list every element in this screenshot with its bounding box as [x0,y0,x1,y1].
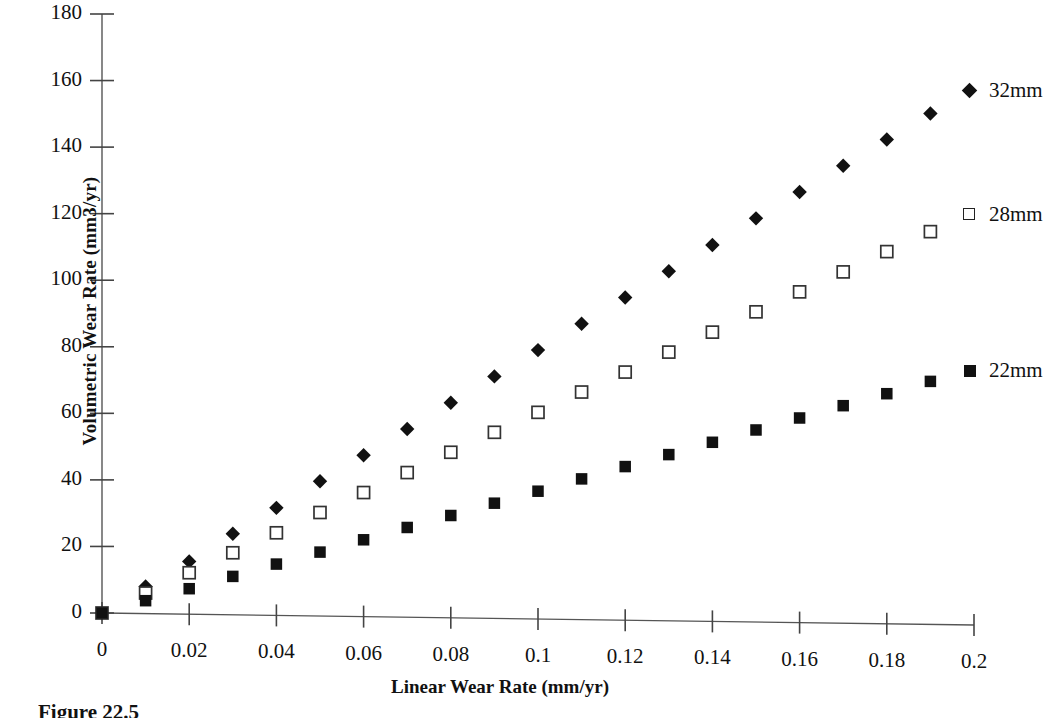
data-point-marker [794,412,806,424]
data-point-marker [227,571,239,583]
data-point-marker [183,567,195,579]
data-point-marker [445,510,457,521]
y-axis-tick-label: 0 [10,599,82,624]
y-axis-tick-label: 160 [10,67,82,92]
y-axis-tick-label: 180 [10,0,82,25]
data-point-marker [269,501,283,515]
x-axis-tick-label: 0.18 [842,648,932,673]
data-point-marker [140,595,152,607]
series-28mm [96,226,936,619]
data-point-marker [881,388,893,400]
x-axis-tick-label: 0.2 [929,649,1019,674]
data-point-marker [271,558,283,570]
data-point-marker [837,266,849,278]
y-axis-tick-label: 60 [10,399,82,424]
data-point-marker [881,246,893,258]
filled-square-icon [962,363,978,379]
y-axis-tick-label: 80 [10,333,82,358]
data-point-marker [401,522,413,534]
data-point-marker [663,449,675,461]
x-axis-tick-label: 0.1 [493,643,583,668]
chart-plot-area [0,0,1061,718]
data-point-marker [445,446,457,458]
legend-label: 28mm [989,202,1043,227]
x-axis-tick-label: 0.12 [580,644,670,669]
data-point-marker [792,185,806,199]
legend-label: 32mm [989,78,1043,103]
data-point-marker [96,607,108,619]
data-point-marker [750,424,762,436]
y-axis-tick-label: 40 [10,466,82,491]
data-point-marker [488,426,500,438]
x-axis-tick-label: 0.02 [144,638,234,663]
data-point-marker [619,461,631,473]
legend-item-28mm[interactable]: 28mm [962,202,1043,227]
data-point-marker [489,497,501,509]
y-axis-tick-label: 100 [10,266,82,291]
data-point-marker [707,437,719,449]
data-point-marker [444,395,458,409]
data-point-marker [705,238,719,252]
x-axis-tick-label: 0.14 [667,645,757,670]
filled-diamond-icon [962,83,978,99]
data-point-marker [663,346,675,358]
x-axis-tick-label: 0.08 [406,642,496,667]
data-point-marker [706,326,718,338]
data-point-marker [750,306,762,318]
series-32mm [95,106,938,620]
y-axis-title: Volumetric Wear Rate (mm3/yr) [79,101,101,521]
figure-caption: Figure 22.5 [38,700,139,718]
data-point-marker [270,527,282,539]
data-point-marker [227,547,239,559]
series-22mm [96,376,936,619]
x-axis-tick-label: 0.16 [755,647,845,672]
legend-label: 22mm [989,358,1043,383]
x-axis-tick-label: 0 [57,637,147,662]
data-point-marker [401,467,413,479]
x-axis-tick-label: 0.04 [231,639,321,664]
data-point-marker [358,487,370,499]
legend-item-22mm[interactable]: 22mm [962,358,1043,383]
legend-item-32mm[interactable]: 32mm [962,78,1043,103]
data-point-marker [749,211,763,225]
data-point-marker [400,422,414,436]
data-point-marker [314,507,326,519]
x-axis-title: Linear Wear Rate (mm/yr) [0,676,1000,698]
open-square-icon [962,207,978,223]
data-point-marker [358,534,370,546]
data-point-marker [531,343,545,357]
data-point-marker [314,546,326,558]
data-point-marker [487,369,501,383]
data-point-marker [619,366,631,378]
chart-container: Volumetric Wear Rate (mm3/yr) Linear Wea… [0,0,1061,718]
x-axis-tick-label: 0.06 [319,641,409,666]
y-axis-tick-label: 140 [10,133,82,158]
data-point-marker [924,226,936,238]
y-axis-tick-label: 120 [10,200,82,225]
data-point-marker [836,159,850,173]
data-point-marker [226,527,240,541]
data-point-marker [313,474,327,488]
data-point-marker [618,290,632,304]
data-point-marker [837,400,849,412]
data-point-marker [794,286,806,298]
data-point-marker [532,406,544,418]
data-point-marker [574,317,588,331]
data-point-marker [576,386,588,398]
data-point-marker [923,106,937,120]
y-axis-tick-label: 20 [10,532,82,557]
data-point-marker [662,264,676,278]
data-point-marker [576,473,588,485]
data-point-marker [183,583,195,595]
data-point-marker [532,485,544,497]
data-point-marker [356,448,370,462]
data-point-marker [880,132,894,146]
data-point-marker [925,376,937,388]
